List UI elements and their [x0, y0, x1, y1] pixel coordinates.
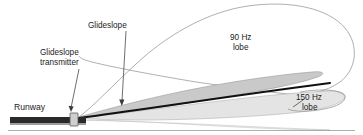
label-glideslope-transmitter-line1: Glideslope [40, 48, 79, 57]
arrowhead-transmitter [69, 106, 74, 112]
label-runway: Runway [14, 102, 46, 112]
diagram-canvas: Runway Glideslope transmitter Glideslope… [0, 0, 363, 135]
leader-line-transmitter [71, 69, 79, 108]
label-90hz-lobe-line2: lobe [233, 43, 249, 52]
leader-line-glideslope [122, 31, 126, 101]
lobe-ground-pale [79, 120, 330, 130]
label-glideslope: Glideslope [88, 21, 127, 30]
label-150hz-lobe-line1: 150 Hz [296, 93, 322, 102]
label-90hz-lobe-line1: 90 Hz [230, 33, 251, 42]
label-150hz-lobe-line2: lobe [302, 103, 318, 112]
ils-glideslope-diagram: Runway Glideslope transmitter Glideslope… [0, 0, 363, 135]
glideslope-transmitter-box [70, 113, 78, 126]
label-glideslope-transmitter-line2: transmitter [40, 58, 79, 67]
